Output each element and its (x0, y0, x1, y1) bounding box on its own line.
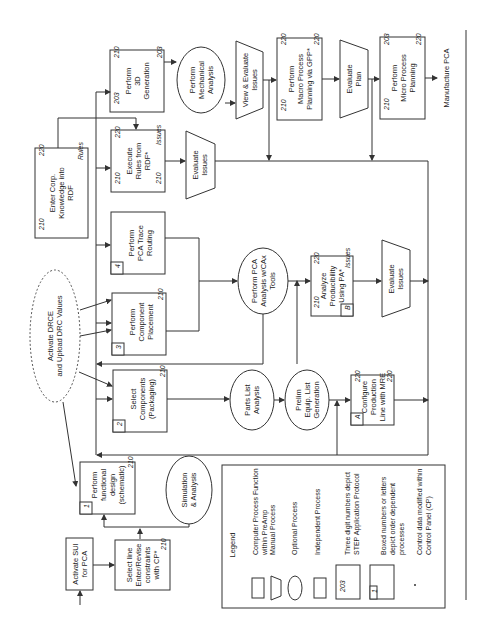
svg-text:Computer Process Function: Computer Process Function (252, 468, 260, 555)
step-number: 210 (280, 99, 287, 112)
step-number: 210 (383, 98, 390, 111)
issues-label: Issues (344, 247, 351, 268)
svg-text:1: 1 (83, 504, 90, 508)
svg-text:Manufacture PCA: Manufacture PCA (442, 48, 451, 107)
step-number: 220 (114, 126, 121, 139)
svg-text:Analysis: Analysis (252, 386, 261, 414)
svg-text:3: 3 (115, 345, 122, 349)
step-number: 210 (38, 218, 45, 231)
step-number: 210 (114, 172, 121, 185)
step-number: 210 (155, 172, 162, 185)
svg-text:Mechanical: Mechanical (197, 61, 206, 99)
svg-text:Perform: Perform (127, 230, 136, 257)
svg-text:203: 203 (339, 580, 346, 593)
svg-text:Evaluate: Evaluate (191, 150, 200, 179)
svg-text:PCA Trace: PCA Trace (136, 225, 145, 261)
svg-text:for PCA: for PCA (80, 551, 89, 577)
svg-text:Parts List: Parts List (243, 383, 252, 415)
svg-text:constraints: constraints (143, 547, 152, 584)
step-number: 210 (127, 456, 134, 469)
step-number: 210 (113, 46, 120, 59)
svg-text:220: 220 (114, 126, 121, 139)
rules-label: Rules (77, 142, 84, 160)
svg-text:A: A (354, 414, 361, 420)
svg-text:Issues: Issues (396, 268, 405, 290)
svg-text:Analysis w/CAx: Analysis w/CAx (259, 255, 268, 307)
svg-text:Generation: Generation (142, 62, 151, 99)
step-number: 220 (280, 33, 287, 46)
svg-text:Analysis: Analysis (206, 66, 215, 94)
svg-text:Perform: Perform (124, 68, 133, 95)
svg-text:Prelim: Prelim (294, 389, 303, 410)
svg-text:design: design (108, 474, 117, 496)
label-activate-drce: Activate DRCEand Upload DRC Values (46, 295, 64, 376)
svg-text:Three digit numbers depict: Three digit numbers depict (344, 472, 352, 555)
legend-sample-1: 1 (371, 589, 378, 593)
svg-text:Macro Process: Macro Process (296, 54, 305, 104)
svg-text:Evaluate: Evaluate (345, 64, 354, 93)
svg-text:Placement: Placement (146, 303, 155, 339)
svg-text:Independent Process: Independent Process (314, 488, 322, 555)
box-number-2: 2 (116, 422, 123, 427)
box-letter-a: A (354, 414, 361, 420)
svg-text:Evaluate: Evaluate (387, 264, 396, 293)
svg-text:RDF: RDF (66, 185, 75, 201)
legend-item-numbered-box: Three digit numbers depictSTEP Applicati… (344, 472, 361, 555)
svg-text:Manual Process: Manual Process (269, 504, 276, 555)
svg-text:203: 203 (383, 33, 390, 46)
svg-text:View & Evaluate: View & Evaluate (241, 53, 250, 107)
svg-text:Issues: Issues (155, 124, 162, 145)
svg-text:210: 210 (313, 296, 320, 309)
svg-text:Production: Production (369, 379, 378, 415)
step-number: 220 (38, 144, 45, 157)
svg-text:Tools: Tools (268, 272, 277, 290)
box-letter-b: B (344, 305, 351, 310)
svg-text:Component: Component (137, 302, 146, 342)
svg-text:220: 220 (354, 370, 361, 383)
svg-text:Issues: Issues (250, 69, 259, 91)
label-evaluate-issues-rdf: EvaluateIssues (191, 150, 209, 179)
svg-text:210: 210 (383, 98, 390, 111)
svg-text:220: 220 (38, 144, 45, 157)
svg-text:processes: processes (398, 523, 406, 555)
step-number: 220 (354, 370, 361, 383)
svg-text:Select line: Select line (125, 548, 134, 583)
legend-item-ellipse: Optional Process (291, 501, 299, 555)
svg-text:Perform PCA: Perform PCA (250, 259, 259, 303)
svg-text:& Analysis: & Analysis (189, 472, 198, 507)
step-number: 220 (386, 370, 393, 383)
svg-text:Perform: Perform (90, 472, 99, 499)
svg-text:210: 210 (157, 288, 164, 301)
label-manufacture: Manufacture PCA (442, 48, 451, 107)
svg-text:Select: Select (129, 388, 138, 410)
svg-text:203: 203 (156, 46, 163, 59)
step-number: 210 (157, 288, 164, 301)
svg-text:Planning: Planning (408, 63, 417, 92)
svg-text:Optional Process: Optional Process (291, 501, 299, 555)
svg-text:203: 203 (113, 92, 120, 105)
svg-text:4: 4 (114, 264, 121, 268)
svg-text:220: 220 (313, 33, 320, 46)
legend-title: Legend (228, 532, 237, 557)
label-trace-routing: PerformPCA TraceRouting (127, 225, 154, 261)
svg-text:220: 220 (280, 33, 287, 46)
svg-text:Perform: Perform (128, 309, 137, 336)
label-simulation: Simulation& Analysis (180, 472, 198, 507)
svg-text:Enter/Revise: Enter/Revise (134, 544, 143, 587)
svg-text:210: 210 (113, 46, 120, 59)
svg-text:Components: Components (138, 377, 147, 420)
box-number-3: 3 (115, 345, 122, 349)
svg-text:210: 210 (159, 365, 166, 378)
svg-text:functional: functional (99, 469, 108, 501)
box-number-1: 1 (83, 504, 90, 508)
svg-text:220: 220 (313, 252, 320, 265)
svg-text:220: 220 (415, 33, 422, 46)
issues-label: Issues (155, 124, 162, 145)
svg-text:210: 210 (38, 218, 45, 231)
svg-text:Planning via GPP*: Planning via GPP* (305, 48, 314, 110)
svg-text:Analyze: Analyze (319, 273, 328, 300)
svg-text:Perform: Perform (390, 65, 399, 92)
svg-text:depict order dependent: depict order dependent (389, 483, 397, 555)
svg-text:Equip. List: Equip. List (303, 382, 312, 418)
svg-text:1: 1 (371, 589, 378, 593)
